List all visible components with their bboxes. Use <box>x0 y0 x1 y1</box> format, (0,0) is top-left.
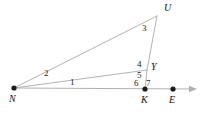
angle-label-2: 2 <box>44 69 49 78</box>
ray-N-to-E <box>14 88 193 89</box>
point-dot-e <box>170 86 175 91</box>
angle-label-3: 3 <box>142 24 147 33</box>
ray-arrowhead <box>189 86 197 92</box>
arrow-layer <box>189 86 197 92</box>
angle-label-4: 4 <box>137 60 142 69</box>
angle-label-1: 1 <box>70 78 75 87</box>
point-label-e: E <box>169 95 175 105</box>
point-label-k: K <box>141 95 148 105</box>
angle-label-7: 7 <box>146 79 151 88</box>
angle-label-6: 6 <box>134 79 139 88</box>
segment-N-to-Y <box>14 70 147 88</box>
point-label-n: N <box>9 94 16 104</box>
point-dot-n <box>11 85 16 90</box>
geometry-diagram: NKEUY 1234567 <box>0 0 200 120</box>
point-label-u: U <box>164 3 171 13</box>
segment-layer <box>14 16 193 89</box>
point-label-y: Y <box>151 62 157 72</box>
